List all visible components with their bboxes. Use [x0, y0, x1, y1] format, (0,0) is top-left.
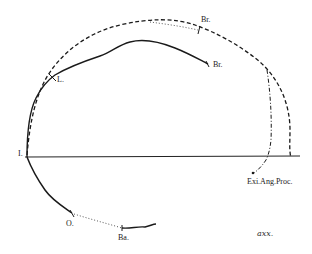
- dotted-o-ba: [74, 214, 122, 228]
- label-exi-ang-proc: Exi.Ang.Proc.: [247, 178, 293, 186]
- baseline: [25, 156, 300, 157]
- label-opisthion: O.: [66, 220, 74, 228]
- opisthion-tick: [70, 210, 74, 217]
- outer-profile-dashed: [27, 20, 291, 158]
- lower-profile-solid: [27, 157, 72, 213]
- basion-segment: [122, 224, 156, 228]
- label-bregma-outer: Br.: [201, 16, 211, 24]
- exi-ang-proc-point: [252, 172, 255, 175]
- inner-right-dashdot: [254, 70, 271, 173]
- dotted-upper-segment: [150, 22, 198, 30]
- label-bregma-inner: Br.: [213, 61, 223, 69]
- signature: axx.: [257, 229, 273, 238]
- label-origin: I.: [18, 150, 23, 158]
- bregma-outer-tick: [198, 26, 200, 34]
- bregma-inner-tick: [206, 61, 209, 67]
- label-basion: Ba.: [118, 234, 129, 242]
- diagram-canvas: I. L. Br. Br. O. Ba. Exi.Ang.Proc. axx.: [0, 0, 312, 254]
- inner-profile-solid: [27, 40, 208, 157]
- label-lambda: L.: [57, 76, 64, 84]
